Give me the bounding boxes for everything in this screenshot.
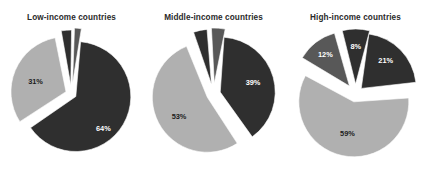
chart-panel-low-income: Low-income countries 64%31%3%2% (0, 0, 143, 186)
panel-title-middle-income: Middle-income countries (142, 13, 285, 22)
pie-slice-39 (220, 37, 275, 137)
pie-slice-59 (299, 76, 409, 157)
label-slice-31: 31% (28, 77, 43, 86)
pie-chart-figure: Low-income countries 64%31%3%2% Middle-i… (0, 0, 427, 186)
label-slice-59: 59% (340, 129, 355, 138)
pie-chart-middle-income: 39%53%4%4% (142, 28, 285, 178)
chart-panel-high-income: High-income countries 21%59%12%8% (284, 0, 427, 186)
label-slice-64: 64% (96, 124, 111, 133)
label-slice-8: 8% (350, 42, 361, 51)
label-slice-21: 21% (378, 56, 393, 65)
pie-chart-low-income: 64%31%3%2% (0, 28, 143, 178)
label-slice-39: 39% (246, 78, 261, 87)
pie-chart-high-income: 21%59%12%8% (284, 28, 427, 178)
label-slice-53: 53% (172, 112, 187, 121)
panel-title-low-income: Low-income countries (0, 13, 143, 22)
chart-panel-middle-income: Middle-income countries 39%53%4%4% (142, 0, 285, 186)
label-slice-12: 12% (318, 50, 333, 59)
panel-title-high-income: High-income countries (284, 13, 427, 22)
